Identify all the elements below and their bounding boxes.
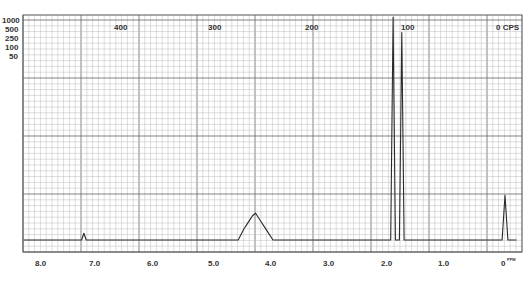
ppm-tick-label: 3.0 [323,259,335,268]
cps-tick-label: 300 [208,23,222,32]
ppm-tick-label: 0 [501,259,506,268]
ppm-tick-label: 5.0 [208,259,220,268]
cps-tick-label: 200 [305,23,319,32]
cps-tick-label: 0 CPS [496,23,520,32]
cps-tick-label: 100 [401,23,415,32]
y-scale-label: 100 [5,43,19,52]
nmr-spectrum-chart: 1000 500 250 100 50 400 300 200 100 0 CP… [0,0,531,281]
y-scale-label: 1000 [2,16,20,25]
ppm-tick-label: 8.0 [35,259,47,268]
cps-tick-label: 400 [114,23,128,32]
y-scale-label: 250 [5,34,19,43]
ppm-tick-label: 2.0 [381,259,393,268]
ppm-tick-label: 1.0 [438,259,450,268]
ppm-unit-label: PPM [507,257,516,262]
ppm-tick-label: 4.0 [265,259,277,268]
ppm-tick-label: 6.0 [147,259,159,268]
y-scale-label: 50 [9,52,18,61]
ppm-tick-label: 7.0 [89,259,101,268]
y-scale-label: 500 [5,25,19,34]
